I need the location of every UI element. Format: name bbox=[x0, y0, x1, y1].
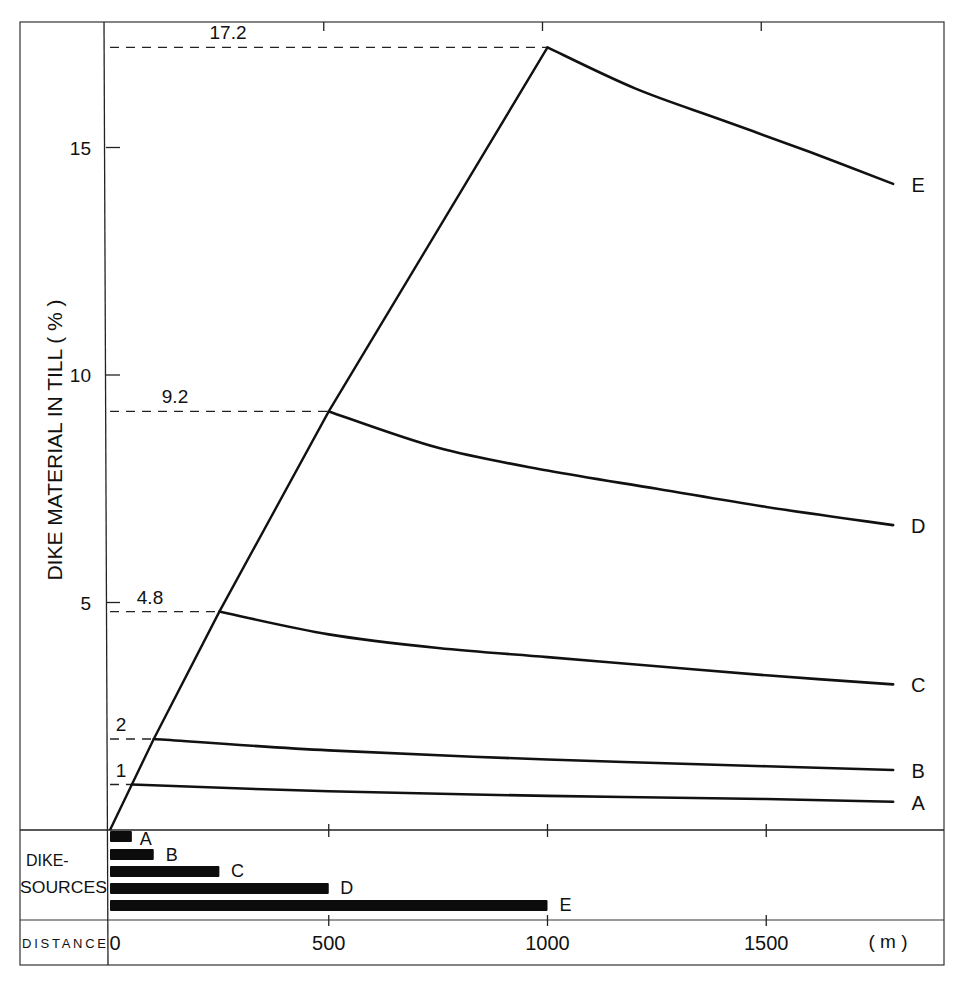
x-axis-unit: ( m ) bbox=[868, 931, 907, 952]
curve-label-d: D bbox=[911, 515, 925, 537]
chart-labels: 124.89.217.2ABCDE bbox=[116, 22, 926, 813]
source-bar-label: E bbox=[559, 895, 571, 915]
dike-sources-label-line2: SOURCES bbox=[20, 879, 107, 896]
source-bar-a bbox=[110, 831, 132, 842]
source-bar-label: A bbox=[140, 829, 152, 849]
source-bar-label: D bbox=[340, 878, 353, 898]
axis-ticks: 51015050010001500 bbox=[70, 22, 789, 954]
peak-value-label: 4.8 bbox=[137, 587, 163, 608]
x-tick-label: 500 bbox=[312, 932, 345, 954]
rise-line bbox=[110, 47, 548, 830]
peak-value-label: 2 bbox=[116, 714, 127, 735]
source-bar-e bbox=[110, 900, 548, 911]
peak-value-label: 17.2 bbox=[210, 22, 247, 43]
source-bar-d bbox=[110, 883, 329, 894]
curve-c bbox=[219, 612, 893, 685]
x-axis-label: DISTANCE bbox=[22, 936, 106, 951]
curve-label-c: C bbox=[911, 674, 925, 696]
curve-d bbox=[329, 411, 893, 525]
curve-label-a: A bbox=[911, 792, 925, 814]
x-tick-label: 1000 bbox=[525, 932, 570, 954]
source-bar-label: C bbox=[231, 861, 244, 881]
decay-curves bbox=[110, 47, 893, 830]
y-axis-line bbox=[104, 22, 108, 965]
x-tick-label: 0 bbox=[109, 932, 120, 954]
peak-value-label: 9.2 bbox=[162, 386, 188, 407]
curve-label-b: B bbox=[911, 760, 924, 782]
source-bar-c bbox=[110, 866, 219, 877]
curve-label-e: E bbox=[911, 174, 924, 196]
x-tick-label: 1500 bbox=[744, 932, 789, 954]
source-bar-label: B bbox=[166, 845, 178, 865]
curve-e bbox=[548, 47, 894, 184]
y-tick-label: 10 bbox=[70, 365, 91, 386]
y-tick-label: 5 bbox=[80, 593, 91, 614]
curve-a bbox=[132, 785, 893, 802]
dike-material-chart: 51015050010001500 ABCDE 124.89.217.2ABCD… bbox=[0, 0, 954, 985]
y-axis-label: DIKE MATERIAL IN TILL ( % ) bbox=[43, 299, 66, 580]
y-tick-label: 15 bbox=[70, 138, 91, 159]
curve-b bbox=[154, 739, 893, 770]
dike-sources-label-line1: DIKE- bbox=[26, 852, 69, 869]
peak-value-label: 1 bbox=[116, 760, 127, 781]
dike-source-bars: ABCDE bbox=[110, 829, 572, 915]
source-bar-b bbox=[110, 849, 154, 860]
chart-frame bbox=[20, 22, 944, 965]
